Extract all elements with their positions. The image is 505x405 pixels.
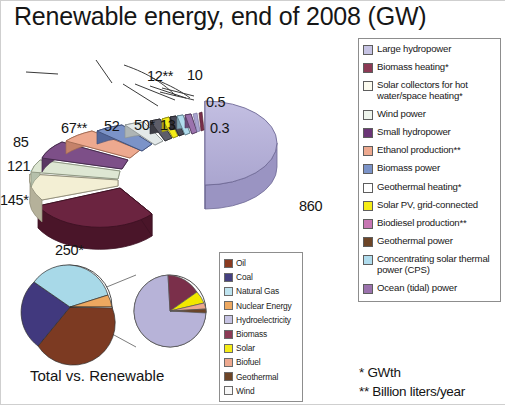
legend-item-ocean-tidal-power[interactable]: Ocean (tidal) power [363,283,497,294]
main-pie-chart: 85 121 145* 250* 67** 52 50* 13 12** 10 … [0,38,352,263]
pie-label-67: 67** [61,120,87,136]
pie-label-860: 860 [299,198,322,214]
legend-label: Hydroelectricity [236,315,291,325]
pie-label-50: 50* [134,117,155,133]
legend-item-biodiesel-production[interactable]: Biodiesel production** [363,218,497,229]
legend-label: Biodiesel production** [377,218,466,229]
legend-swatch-icon [224,386,233,395]
legend-swatch-icon [363,237,373,247]
legend-label: Ocean (tidal) power [377,283,457,294]
footnotes: * GWth ** Billion liters/year [359,363,505,401]
legend-label: Wind power [377,109,426,120]
legend-swatch-icon [363,146,373,156]
page-title: Renewable energy, end of 2008 (GW) [14,2,426,31]
renewable-detail-pie [134,275,206,347]
legend-item-solar[interactable]: Solar [224,341,299,355]
total-energy-pie [21,265,115,365]
legend-swatch-icon [363,81,373,91]
pie-label-145: 145* [0,192,29,208]
footnote-billion-liters: ** Billion liters/year [359,382,505,401]
pie-label-85: 85 [13,134,29,150]
legend-label: Oil [236,258,246,268]
small-pies-caption: Total vs. Renewable [30,367,164,384]
renewable-legend: Large hydropower Biomass heating* Solar … [358,38,501,302]
legend-item-natural-gas[interactable]: Natural Gas [224,284,299,298]
legend-swatch-icon [224,344,233,353]
legend-swatch-icon [363,164,373,174]
legend-item-solar-pv[interactable]: Solar PV, grid-connected [363,200,497,211]
legend-item-coal[interactable]: Coal [224,270,299,284]
legend-label: Concentrating solar thermal power (CPS) [377,254,497,275]
legend-swatch-icon [224,259,233,268]
image-edge-top [0,0,505,1]
legend-item-small-hydropower[interactable]: Small hydropower [363,127,497,138]
legend-swatch-icon [363,110,373,120]
legend-label: Geothermal power [377,236,453,247]
pie-label-12: 12** [147,68,173,84]
legend-item-ethanol-production[interactable]: Ethanol production** [363,145,497,156]
legend-item-nuclear-energy[interactable]: Nuclear Energy [224,299,299,313]
legend-label: Small hydropower [377,127,451,138]
main-pie-graphic [0,38,352,263]
fuel-legend: Oil Coal Natural Gas Nuclear Energy Hydr… [219,252,303,402]
legend-item-wind-power[interactable]: Wind power [363,109,497,120]
legend-item-geothermal[interactable]: Geothermal [224,370,299,384]
footnote-gwth: * GWth [359,363,505,382]
legend-label: Geothermal [236,372,278,382]
pie-label-0-5: 0.5 [206,94,225,110]
legend-item-wind[interactable]: Wind [224,384,299,398]
legend-label: Biomass [236,329,267,339]
pie-slice-large-hydropower [205,101,277,209]
legend-label: Biomass power [377,163,440,174]
legend-label: Solar collectors for hot water/space hea… [377,80,497,101]
legend-label: Nuclear Energy [236,301,292,311]
legend-swatch-icon [224,358,233,367]
legend-label: Biofuel [236,357,261,367]
pie-label-121: 121 [7,158,30,174]
legend-label: Solar PV, grid-connected [377,200,478,211]
legend-item-biomass-heating[interactable]: Biomass heating* [363,62,497,73]
legend-swatch-icon [224,273,233,282]
legend-label: Ethanol production** [377,145,460,156]
legend-swatch-icon [224,287,233,296]
legend-label: Solar [236,343,255,353]
legend-item-concentrating-solar[interactable]: Concentrating solar thermal power (CPS) [363,254,497,275]
legend-swatch-icon [363,45,373,55]
legend-swatch-icon [363,63,373,73]
legend-swatch-icon [224,301,233,310]
legend-item-geothermal-power[interactable]: Geothermal power [363,236,497,247]
legend-swatch-icon [224,315,233,324]
pie-label-10: 10 [187,67,203,83]
total-vs-renewable-chart: Total vs. Renewable [8,255,218,405]
legend-label: Wind [236,386,254,396]
legend-item-biofuel[interactable]: Biofuel [224,355,299,369]
legend-item-geothermal-heating[interactable]: Geothermal heating* [363,182,497,193]
legend-item-solar-collectors[interactable]: Solar collectors for hot water/space hea… [363,80,497,101]
legend-item-hydroelectricity[interactable]: Hydroelectricity [224,313,299,327]
pie-label-52: 52 [104,118,120,134]
legend-label: Geothermal heating* [377,182,461,193]
legend-label: Biomass heating* [377,62,448,73]
legend-swatch-icon [363,255,373,265]
legend-item-large-hydropower[interactable]: Large hydropower [363,44,497,55]
pie-label-13: 13 [160,117,176,133]
legend-label: Coal [236,272,253,282]
legend-swatch-icon [363,128,373,138]
legend-item-biomass[interactable]: Biomass [224,327,299,341]
legend-swatch-icon [363,284,373,294]
legend-item-oil[interactable]: Oil [224,256,299,270]
legend-label: Natural Gas [236,286,279,296]
legend-swatch-icon [363,183,373,193]
legend-swatch-icon [363,201,373,211]
legend-swatch-icon [224,372,233,381]
legend-label: Large hydropower [377,44,451,55]
pie-label-0-3: 0.3 [210,120,229,136]
legend-swatch-icon [224,330,233,339]
legend-item-biomass-power[interactable]: Biomass power [363,163,497,174]
legend-swatch-icon [363,219,373,229]
